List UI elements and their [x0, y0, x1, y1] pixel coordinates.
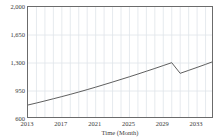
x-tick-label: 2025 [113, 120, 143, 128]
series-layer [28, 61, 213, 105]
gridlines-vertical [36, 7, 205, 118]
line-chart: 2,0001,6501,300950600 201320172021202520… [0, 0, 220, 139]
series-line-0 [28, 61, 213, 105]
x-axis-title: Time (Month) [27, 129, 213, 137]
chart-title [0, 0, 220, 3]
plot-svg [28, 7, 213, 118]
x-tick-label: 2013 [12, 120, 42, 128]
y-tick-label: 1,300 [0, 59, 25, 66]
x-tick-label: 2017 [46, 120, 76, 128]
y-tick-label: 950 [0, 87, 25, 94]
y-tick-label: 2,000 [0, 3, 25, 10]
plot-area [27, 6, 213, 118]
x-tick-label: 2021 [80, 120, 110, 128]
gridlines-horizontal [28, 35, 213, 91]
x-tick-label: 2029 [147, 120, 177, 128]
x-tick-label: 2033 [181, 120, 211, 128]
y-tick-label: 1,650 [0, 31, 25, 38]
